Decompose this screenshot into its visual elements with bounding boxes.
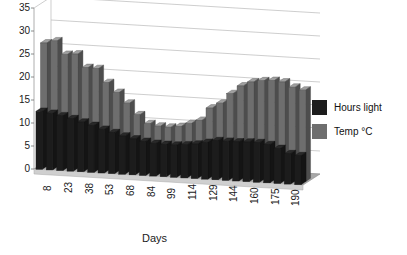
x-axis-title: Days (142, 232, 167, 244)
bar-chart: 05101520253035 8233853688499114129144160… (0, 0, 407, 255)
legend-swatch-temp (312, 124, 327, 139)
chart-legend: Hours lightTemp °C (312, 100, 382, 139)
legend-swatch-hours-light (312, 100, 327, 115)
legend-item: Hours light (312, 100, 382, 115)
legend-label: Hours light (334, 103, 382, 113)
legend-label: Temp °C (334, 127, 372, 137)
legend-item: Temp °C (312, 124, 382, 139)
